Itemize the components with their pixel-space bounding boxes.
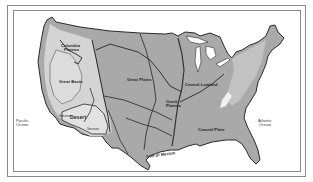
label-central-lowland: Central Lowland [185, 83, 218, 87]
label-great-plains: Great Plains [127, 78, 152, 82]
label-sonoran-1: Sonoran [59, 114, 71, 118]
label-columbia-plateau: Columbia Plateau [61, 44, 80, 52]
label-sonoran-2: Sonoran [87, 127, 99, 131]
label-pacific-ocean: Pacific Ocean [16, 119, 28, 127]
label-atlantic-ocean: Atlantic Ocean [258, 119, 272, 127]
label-coastal-plain: Coastal Plain [198, 128, 224, 132]
label-ozark-plateau: Ozark Plateau [166, 100, 181, 108]
label-desert: Desert [70, 115, 86, 119]
label-great-basin: Great Basin [59, 80, 83, 84]
